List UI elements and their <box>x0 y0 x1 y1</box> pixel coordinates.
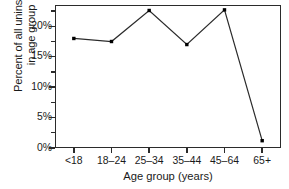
y-axis-minor-tick <box>51 41 55 42</box>
data-point-marker <box>72 37 75 40</box>
data-point-marker <box>185 43 188 46</box>
x-axis-major-tick <box>148 148 149 153</box>
y-axis-tick-label: 0% <box>0 143 52 153</box>
y-axis-major-tick <box>49 56 55 57</box>
y-axis-tick-label: 20% <box>0 21 52 31</box>
y-axis-minor-tick <box>51 132 55 133</box>
x-axis-major-tick <box>73 148 74 153</box>
y-axis-minor-tick <box>51 71 55 72</box>
x-axis-major-tick <box>224 148 225 153</box>
series-line <box>74 10 262 141</box>
y-axis-major-tick <box>49 117 55 118</box>
y-axis-tick-label: 10% <box>0 82 52 92</box>
y-axis-major-tick <box>49 147 55 148</box>
y-axis-tick-label: 5% <box>0 112 52 122</box>
data-point-marker <box>260 139 263 142</box>
data-point-marker <box>110 40 113 43</box>
y-axis-minor-tick <box>51 10 55 11</box>
data-point-marker <box>147 9 150 12</box>
y-axis-tick-label: 15% <box>0 51 52 61</box>
y-axis-major-tick <box>49 86 55 87</box>
line-chart: Percent of all uninsured in age group 0%… <box>0 0 289 189</box>
plot-series-layer <box>55 5 281 148</box>
data-point-marker <box>223 8 226 11</box>
x-axis-title: Age group (years) <box>55 170 281 182</box>
x-axis-major-tick <box>261 148 262 153</box>
x-axis-major-tick <box>111 148 112 153</box>
x-axis-tick-label: 65+ <box>232 155 289 166</box>
y-axis-minor-tick <box>51 102 55 103</box>
y-axis-major-tick <box>49 26 55 27</box>
x-axis-major-tick <box>186 148 187 153</box>
